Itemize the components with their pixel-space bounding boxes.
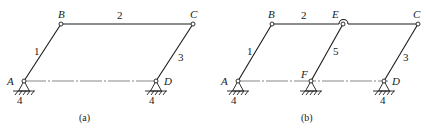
label-joint-d: D bbox=[391, 75, 400, 87]
link-1-ab bbox=[238, 24, 272, 81]
label-joint-d: D bbox=[163, 75, 172, 87]
label-joint-e: E bbox=[331, 8, 339, 20]
joint-c bbox=[416, 22, 420, 26]
label-joint-b: B bbox=[268, 8, 275, 20]
joint-f bbox=[309, 79, 313, 83]
label-link-3: 3 bbox=[403, 51, 409, 63]
joint-b bbox=[59, 22, 63, 26]
label-joint-f: F bbox=[300, 68, 308, 80]
label-joint-b: B bbox=[58, 8, 65, 20]
label-ground-4-right: 4 bbox=[149, 94, 155, 106]
joint-c bbox=[191, 22, 195, 26]
link-3-cd bbox=[156, 24, 193, 81]
label-link-1: 1 bbox=[247, 45, 253, 57]
linkage-diagrams: A B C D 1 2 3 4 4 (a) bbox=[0, 0, 427, 128]
label-joint-a: A bbox=[6, 75, 14, 87]
joint-a bbox=[22, 79, 26, 83]
label-joint-a: A bbox=[220, 75, 228, 87]
joint-d bbox=[154, 79, 158, 83]
label-ground-4-left: 4 bbox=[231, 94, 237, 106]
label-link-2: 2 bbox=[117, 9, 123, 21]
label-ground-4-left: 4 bbox=[17, 94, 23, 106]
figure-a-four-bar-linkage: A B C D 1 2 3 4 4 (a) bbox=[6, 8, 198, 124]
link-1-ab bbox=[24, 24, 61, 81]
joint-e bbox=[341, 22, 345, 26]
figure-b-parallel-linkage: A B E C F D 1 2 3 5 4 4 (b) bbox=[220, 8, 421, 124]
label-link-1: 1 bbox=[34, 45, 40, 57]
joint-d bbox=[382, 79, 386, 83]
label-link-2: 2 bbox=[301, 9, 307, 21]
joint-b bbox=[270, 22, 274, 26]
caption-a: (a) bbox=[79, 112, 90, 124]
label-ground-4-right: 4 bbox=[380, 94, 386, 106]
link-3-cd bbox=[384, 24, 418, 81]
label-link-5: 5 bbox=[333, 45, 339, 57]
label-joint-c: C bbox=[413, 8, 421, 20]
label-joint-c: C bbox=[190, 8, 198, 20]
label-link-3: 3 bbox=[178, 51, 184, 63]
caption-b: (b) bbox=[301, 112, 313, 124]
joint-a bbox=[236, 79, 240, 83]
